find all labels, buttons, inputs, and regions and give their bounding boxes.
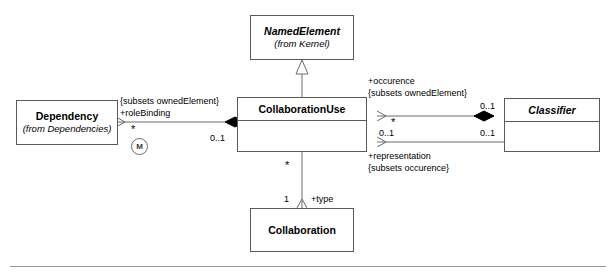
class-dependency[interactable]: Dependency (from Dependencies) (16, 100, 118, 145)
class-title-classifier: Classifier (528, 104, 575, 117)
label-type-role: +type (311, 194, 333, 205)
class-collaboration[interactable]: Collaboration (250, 208, 354, 252)
label-representation-constraint: {subsets occurence} (368, 163, 449, 174)
class-title-named-element: NamedElement (264, 25, 340, 38)
class-title-dependency: Dependency (36, 110, 98, 123)
generalization-collaborationuse-namedelement (296, 60, 308, 97)
class-title-collaboration-use: CollaborationUse (259, 103, 346, 116)
bottom-divider (10, 266, 606, 267)
class-title-collaboration: Collaboration (268, 224, 336, 237)
label-occurence-source-mult: * (391, 117, 395, 128)
label-occurence-role: +occurence (368, 76, 415, 87)
label-rolebinding-target-mult: 0..1 (210, 133, 225, 144)
class-named-element[interactable]: NamedElement (from Kernel) (250, 15, 354, 60)
class-attributes-collaboration-use (238, 121, 366, 152)
uml-class-diagram: NamedElement (from Kernel) Dependency (f… (0, 0, 615, 277)
label-representation-left-mult: 0..1 (379, 128, 394, 139)
class-classifier[interactable]: Classifier (504, 98, 600, 152)
class-collaboration-use[interactable]: CollaborationUse (237, 97, 367, 152)
label-rolebinding-role: +roleBinding (120, 108, 170, 119)
label-occurence-constraint: {subsets ownedElement} (368, 88, 467, 99)
label-rolebinding-constraint: {subsets ownedElement} (120, 96, 219, 107)
label-representation-right-mult: 0..1 (480, 128, 495, 139)
badge-m-icon: M (131, 138, 148, 155)
label-type-source-mult: * (285, 160, 289, 171)
label-occurence-target-mult: 0..1 (480, 101, 495, 112)
label-type-target-mult: 1 (284, 194, 289, 205)
label-rolebinding-source-mult: * (131, 124, 135, 135)
class-stereotype-named-element: (from Kernel) (274, 38, 329, 50)
class-stereotype-dependency: (from Dependencies) (23, 123, 112, 135)
label-representation-role: +representation (368, 151, 431, 162)
class-attributes-classifier (505, 122, 599, 152)
